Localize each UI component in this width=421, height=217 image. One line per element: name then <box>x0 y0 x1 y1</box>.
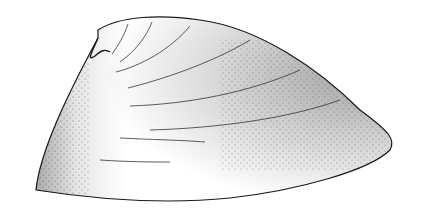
stipple-shading <box>0 0 421 217</box>
shell-illustration <box>0 0 421 217</box>
